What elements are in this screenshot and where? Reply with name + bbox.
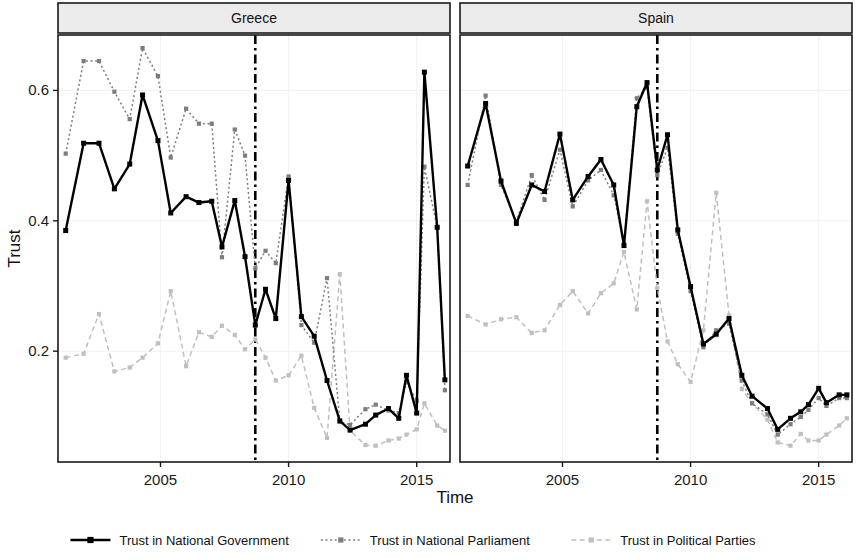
series-marker — [140, 356, 144, 360]
xaxis-tick-label: 2015 — [400, 471, 433, 488]
series-marker — [788, 444, 792, 448]
series-marker — [363, 407, 367, 411]
series-marker — [611, 182, 616, 187]
series-marker — [542, 189, 547, 194]
series-marker — [422, 70, 427, 75]
panel-title-greece: Greece — [231, 10, 277, 26]
series-marker — [97, 312, 101, 316]
series-marker — [599, 168, 603, 172]
legend-label: Trust in Political Parties — [620, 533, 756, 548]
series-marker — [655, 173, 659, 177]
series-marker — [739, 373, 744, 378]
series-marker — [82, 352, 86, 356]
series-marker — [586, 311, 590, 315]
series-marker — [714, 332, 719, 337]
series-marker — [750, 394, 755, 399]
legend: Trust in National GovernmentTrust in Nat… — [70, 533, 756, 548]
series-marker — [483, 101, 488, 106]
chart-root: Greece200520102015Spain2005201020150.20.… — [0, 0, 861, 559]
series-marker — [571, 289, 575, 293]
series-marker — [363, 422, 368, 427]
series-marker — [542, 328, 546, 332]
series-marker — [799, 415, 803, 419]
series-marker — [233, 127, 237, 131]
series-marker — [414, 411, 419, 416]
series-marker — [128, 117, 132, 121]
series-marker — [219, 244, 224, 249]
series-marker — [232, 198, 237, 203]
series-marker — [817, 438, 821, 442]
series-marker — [776, 433, 780, 437]
series-marker — [837, 423, 841, 427]
series-marker — [325, 378, 330, 383]
series-marker — [263, 249, 267, 253]
series-marker — [465, 164, 470, 169]
series-marker — [243, 347, 247, 351]
series-marker — [128, 365, 132, 369]
series-marker — [514, 315, 518, 319]
series-marker — [484, 322, 488, 326]
series-marker — [570, 197, 575, 202]
series-marker — [714, 191, 718, 195]
series-marker — [97, 59, 101, 63]
series-marker — [112, 186, 117, 191]
series-marker — [312, 406, 316, 410]
series-marker — [386, 406, 391, 411]
series-marker — [484, 94, 488, 98]
panel-spain: Spain200520102015 — [460, 3, 852, 488]
series-marker — [274, 261, 278, 265]
series-marker — [466, 183, 470, 187]
series-marker — [184, 194, 189, 199]
series-marker — [435, 225, 440, 230]
series-marker — [299, 354, 303, 358]
xaxis-tick-label: 2010 — [674, 471, 707, 488]
series-marker — [442, 377, 447, 382]
series-marker — [253, 337, 257, 341]
series-marker — [557, 132, 562, 137]
series-marker — [816, 386, 821, 391]
series-marker — [273, 316, 278, 321]
series-marker — [220, 324, 224, 328]
series-marker — [799, 432, 803, 436]
series-marker — [765, 406, 770, 411]
series-marker — [169, 155, 173, 159]
series-marker — [233, 333, 237, 337]
series-marker — [676, 362, 680, 366]
series-marker — [740, 387, 744, 391]
series-marker — [612, 281, 616, 285]
series-marker — [788, 416, 793, 421]
series-marker — [286, 373, 290, 377]
series-marker — [253, 323, 258, 328]
series-marker — [386, 438, 390, 442]
series-marker — [210, 122, 214, 126]
yaxis-tick-label: 0.2 — [28, 342, 49, 359]
series-marker — [530, 173, 534, 177]
series-marker — [243, 254, 248, 259]
series-marker — [530, 331, 534, 335]
series-marker — [824, 400, 829, 405]
series-marker — [422, 401, 426, 405]
series-marker — [64, 152, 68, 156]
series-marker — [806, 408, 810, 412]
series-marker — [542, 198, 546, 202]
series-marker — [571, 204, 575, 208]
series-marker — [140, 46, 144, 50]
series-marker — [220, 255, 224, 259]
series-marker — [499, 317, 503, 321]
series-marker — [645, 80, 650, 85]
series-marker — [675, 227, 680, 232]
series-marker — [263, 356, 267, 360]
series-marker — [645, 199, 649, 203]
yaxis-tick-label: 0.4 — [28, 212, 49, 229]
panel-title-spain: Spain — [638, 10, 674, 26]
series-marker — [701, 328, 705, 332]
series-marker — [635, 96, 639, 100]
series-marker — [397, 436, 401, 440]
series-marker — [498, 179, 503, 184]
series-marker — [558, 148, 562, 152]
series-marker — [634, 104, 639, 109]
series-marker — [274, 378, 278, 382]
series-marker — [140, 92, 145, 97]
series-marker — [788, 422, 792, 426]
series-marker — [64, 356, 68, 360]
